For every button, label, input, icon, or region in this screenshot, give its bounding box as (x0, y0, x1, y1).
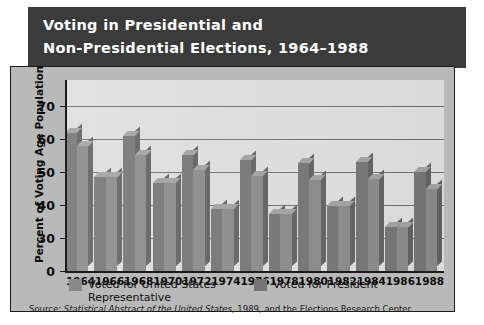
bar-representative-1966 (106, 177, 118, 271)
bar-representative-1980 (309, 180, 321, 271)
legend-label-president: Voted for President (273, 278, 378, 291)
bar-representative-1984 (368, 179, 380, 271)
bar-face (280, 214, 292, 271)
bar-president-1986 (385, 227, 397, 271)
bar-representative-1978 (280, 214, 292, 271)
bar-face (123, 136, 135, 271)
bar-side-face (146, 146, 151, 266)
source-prefix: Source: (29, 304, 64, 314)
bar-president-1988 (414, 172, 426, 271)
bar-president-1982 (327, 206, 339, 271)
bar-face (338, 206, 350, 271)
bar-face (240, 160, 252, 271)
bar-representative-1970 (164, 183, 176, 271)
bar-face (222, 209, 234, 271)
chart-title-banner: Voting in Presidential and Non-President… (28, 7, 466, 68)
bar-face (356, 162, 368, 271)
bar-face (269, 214, 281, 271)
source-note: Source: Statistical Abstract of the Unit… (29, 304, 411, 314)
chart-frame: 70605040300 1964196619681970197219741976… (10, 66, 455, 312)
legend-swatch-president-icon (254, 279, 267, 291)
bar-face (77, 146, 89, 271)
bar-face (182, 155, 194, 271)
bar-representative-1974 (222, 209, 234, 271)
chart-title-line-1: Voting in Presidential and (43, 14, 466, 37)
bar-president-1978 (269, 214, 281, 271)
bar-face (106, 177, 118, 271)
bar-side-face (234, 199, 239, 266)
bar-side-face (379, 170, 384, 266)
bar-face (426, 189, 438, 271)
bar-face (65, 133, 77, 271)
bar-side-face (117, 168, 122, 266)
bar-face (309, 180, 321, 271)
bar-face (251, 176, 263, 271)
bar-representative-1972 (193, 170, 205, 271)
bar-representative-1964 (77, 146, 89, 271)
legend-label-representative: Voted for United States Representative (88, 278, 218, 304)
bar-face (164, 183, 176, 271)
bar-side-face (176, 174, 181, 266)
bar-face (385, 227, 397, 271)
y-axis-line (65, 80, 67, 272)
bar-face (94, 177, 106, 271)
bar-face (211, 209, 223, 271)
bar-face (135, 155, 147, 271)
bar-president-1964 (65, 133, 77, 271)
bar-representative-1986 (397, 227, 409, 271)
legend-item-president: Voted for President (254, 278, 378, 291)
bar-face (414, 172, 426, 271)
bar-representative-1968 (135, 155, 147, 271)
legend-item-representative: Voted for United States Representative (69, 278, 218, 304)
bar-president-1972 (182, 155, 194, 271)
bar-representative-1982 (338, 206, 350, 271)
y-tick-label-0: 0 (11, 264, 55, 279)
bar-president-1966 (94, 177, 106, 271)
bar-face (397, 227, 409, 271)
bar-representative-1988 (426, 189, 438, 271)
chart-title-line-2: Non-Presidential Elections, 1964–1988 (43, 37, 466, 60)
bar-face (368, 179, 380, 271)
bar-side-face (321, 170, 326, 266)
bar-president-1970 (153, 183, 165, 271)
bar-face (327, 206, 339, 271)
bar-president-1968 (123, 136, 135, 271)
gridline-70 (66, 106, 444, 107)
source-italic-title: Statistical Abstract of the United State… (64, 304, 235, 314)
x-axis-line (65, 271, 444, 273)
legend: Voted for United States Representative V… (69, 278, 439, 305)
source-suffix: 1989, and the Elections Research Center (235, 304, 411, 314)
bar-face (153, 183, 165, 271)
bar-side-face (205, 160, 210, 266)
bar-president-1974 (211, 209, 223, 271)
bar-representative-1976 (251, 176, 263, 271)
bar-side-face (88, 137, 93, 266)
bar-president-1984 (356, 162, 368, 271)
bar-side-face (292, 205, 297, 266)
bar-face (193, 170, 205, 271)
y-axis-title: Percent of Voting Age Population (33, 73, 45, 263)
legend-swatch-representative-icon (69, 279, 82, 291)
bar-side-face (263, 166, 268, 266)
y-axis-title-wrap: Percent of Voting Age Population (33, 73, 47, 263)
bar-side-face (350, 196, 355, 266)
bar-president-1976 (240, 160, 252, 271)
bar-side-face (437, 180, 442, 266)
figure: Voting in Presidential and Non-President… (10, 7, 466, 312)
